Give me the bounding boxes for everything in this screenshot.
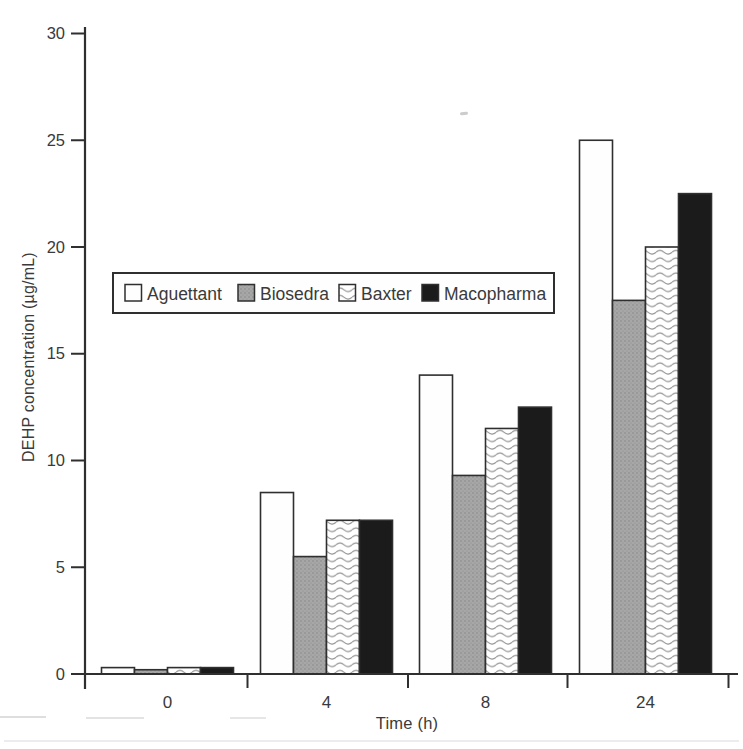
scan-artifact xyxy=(230,717,266,719)
bar-baxter-8h xyxy=(486,428,519,674)
bar-macopharma-24h xyxy=(679,194,712,674)
y-tick-label: 15 xyxy=(47,344,65,362)
bar-baxter-4h xyxy=(327,520,360,674)
bar-baxter-24h xyxy=(646,247,679,674)
legend-swatch-biosedra xyxy=(238,285,255,302)
x-category-label: 0 xyxy=(163,693,172,712)
legend-swatch-macopharma xyxy=(422,285,439,302)
legend-label-aguettant: Aguettant xyxy=(147,284,222,304)
scan-artifact xyxy=(86,717,144,719)
bar-aguettant-24h xyxy=(580,140,613,674)
bar-aguettant-8h xyxy=(420,375,453,674)
legend-label-biosedra: Biosedra xyxy=(260,284,329,304)
scan-artifact xyxy=(0,716,46,718)
x-axis-title: Time (h) xyxy=(376,714,438,733)
bar-chart-figure: 05101520253004824AguettantBiosedraBaxter… xyxy=(0,0,743,749)
bar-macopharma-4h xyxy=(360,520,393,674)
y-tick-label: 0 xyxy=(56,665,65,683)
bar-biosedra-24h xyxy=(613,300,646,674)
chart-canvas: 05101520253004824AguettantBiosedraBaxter… xyxy=(0,0,743,749)
bar-biosedra-4h xyxy=(294,557,327,674)
y-tick-label: 10 xyxy=(47,451,65,469)
legend-label-macopharma: Macopharma xyxy=(444,284,546,304)
x-category-label: 8 xyxy=(481,693,490,712)
bar-macopharma-8h xyxy=(519,407,552,674)
y-tick-label: 25 xyxy=(47,131,65,149)
bar-aguettant-4h xyxy=(261,493,294,674)
legend-swatch-aguettant xyxy=(125,285,142,302)
x-category-label: 4 xyxy=(322,693,331,712)
scan-artifact xyxy=(4,740,739,742)
y-tick-label: 30 xyxy=(47,24,65,42)
y-axis-title: DEHP concentration (µg/mL) xyxy=(20,252,38,462)
y-tick-label: 20 xyxy=(47,238,65,256)
legend-label-baxter: Baxter xyxy=(361,284,412,304)
bar-biosedra-8h xyxy=(453,475,486,674)
y-tick-label: 5 xyxy=(56,558,65,576)
legend-swatch-baxter xyxy=(339,285,356,302)
x-category-label: 24 xyxy=(636,693,655,712)
